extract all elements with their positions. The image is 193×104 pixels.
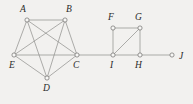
edge-d-e xyxy=(14,55,47,78)
vertex-label-b: B xyxy=(66,5,72,15)
vertex-d xyxy=(45,76,49,80)
vertex-c xyxy=(75,53,79,57)
vertex-label-g: G xyxy=(135,13,142,23)
vertex-h xyxy=(138,53,142,57)
vertex-label-e: E xyxy=(9,61,15,71)
edge-g-i xyxy=(113,28,140,55)
vertex-f xyxy=(111,26,115,30)
edge-b-d xyxy=(47,20,65,78)
vertex-g xyxy=(138,26,142,30)
vertex-b xyxy=(63,18,67,22)
edge-a-e xyxy=(14,20,27,55)
edges-group xyxy=(14,20,172,78)
vertex-label-f: F xyxy=(108,13,114,23)
vertex-a xyxy=(25,18,29,22)
vertex-label-c: C xyxy=(73,61,79,71)
vertex-label-a: A xyxy=(20,5,26,15)
edge-b-c xyxy=(65,20,77,55)
edge-a-c xyxy=(27,20,77,55)
edge-b-e xyxy=(14,20,65,55)
edge-a-d xyxy=(27,20,47,78)
vertex-j xyxy=(170,53,174,57)
graph-canvas xyxy=(0,0,193,104)
vertex-label-i: I xyxy=(110,61,113,71)
graph-diagram: ABCDEFGHIJ xyxy=(0,0,193,104)
vertex-label-h: H xyxy=(135,61,142,71)
vertex-label-d: D xyxy=(43,84,50,94)
vertex-e xyxy=(12,53,16,57)
vertex-i xyxy=(111,53,115,57)
vertex-label-j: J xyxy=(179,52,183,62)
